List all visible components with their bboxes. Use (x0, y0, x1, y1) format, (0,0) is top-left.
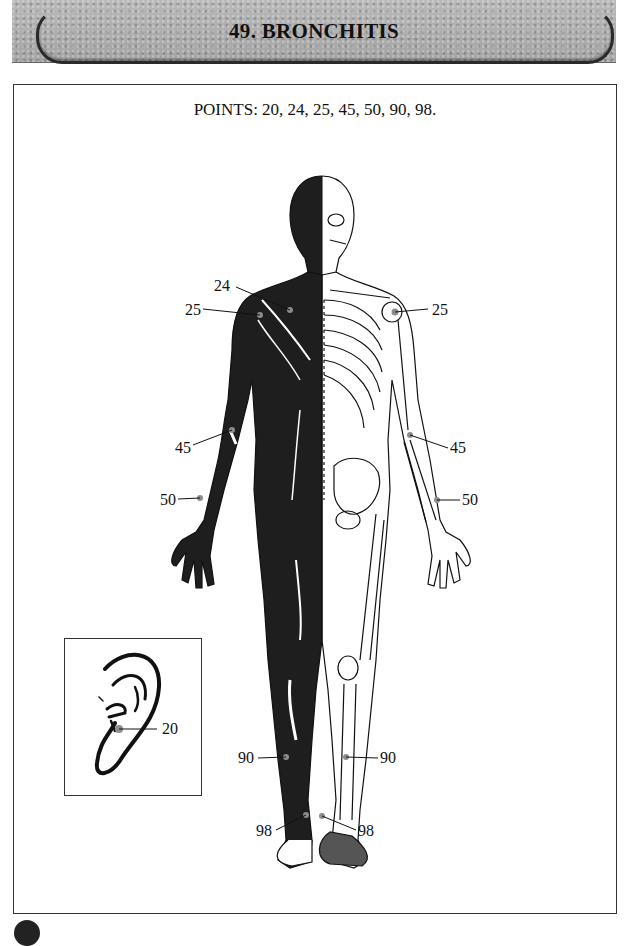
point-label-90-right: 90 (380, 750, 396, 766)
point-label-90-left: 90 (238, 750, 254, 766)
ear-inset-box: 20 (64, 638, 202, 796)
point-label-50-right: 50 (462, 492, 478, 508)
point-label-25-left: 25 (185, 302, 201, 318)
point-label-45-left: 45 (175, 440, 191, 456)
ear-illustration (65, 639, 203, 797)
point-label-24: 24 (214, 278, 230, 294)
point-label-25-right: 25 (432, 302, 448, 318)
point-label-98-left: 98 (256, 823, 272, 839)
page-corner-marker (14, 920, 40, 946)
point-label-45-right: 45 (450, 440, 466, 456)
point-label-50-left: 50 (160, 492, 176, 508)
point-label-20: 20 (162, 721, 178, 737)
point-label-98-right: 98 (358, 823, 374, 839)
